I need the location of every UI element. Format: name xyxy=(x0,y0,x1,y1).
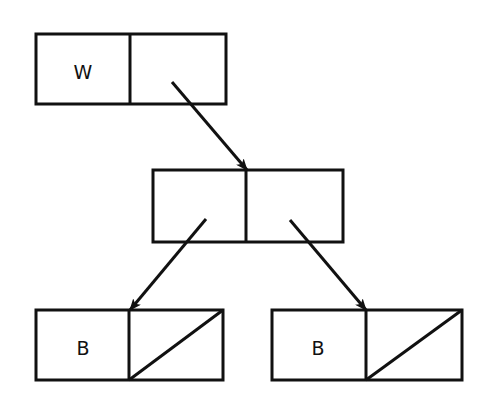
top-cell xyxy=(36,34,226,104)
top-cell-label: W xyxy=(74,63,93,82)
bottom-right-cell xyxy=(272,310,462,380)
bottom-right-cell-label: B xyxy=(311,339,324,358)
bottom-left-cell xyxy=(36,310,223,380)
bottom-left-cell-label: B xyxy=(76,339,89,358)
middle-cell-box xyxy=(153,170,343,242)
middle-cell xyxy=(153,170,343,242)
